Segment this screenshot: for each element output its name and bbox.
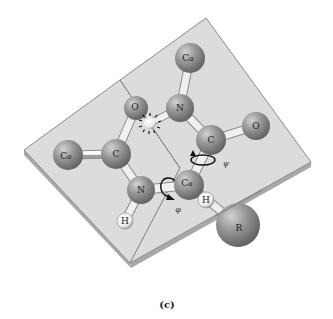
atom-calpha-left: Cα (53, 140, 83, 170)
atom-nitrogen-top: N (166, 94, 194, 122)
svg-text:O: O (131, 102, 138, 112)
svg-text:O: O (252, 121, 259, 131)
svg-text:Cα: Cα (181, 178, 193, 188)
svg-text:H: H (202, 195, 210, 205)
atom-calpha-top: Cα (175, 43, 205, 73)
svg-text:H: H (121, 216, 129, 226)
atom-r-group: R (216, 203, 260, 247)
figure-caption: (c) (159, 299, 175, 310)
atom-carbon-right: C (196, 125, 226, 155)
svg-text:Cα: Cα (60, 151, 72, 161)
atom-hydrogen-n: H (117, 213, 133, 229)
svg-text:N: N (176, 103, 184, 113)
atom-oxygen-right: O (242, 112, 270, 140)
svg-text:Cα: Cα (182, 53, 194, 63)
peptide-plane-diagram: Cα C O N Cα (0, 0, 333, 319)
hydrogen-clash (144, 117, 156, 129)
psi-label: ψ (223, 159, 230, 168)
phi-label: φ (175, 205, 181, 214)
svg-text:R: R (236, 223, 243, 233)
svg-text:C: C (208, 135, 215, 145)
atom-hydrogen-calpha: H (198, 192, 214, 208)
atom-nitrogen-bottom: N (127, 176, 155, 204)
svg-text:N: N (137, 185, 145, 195)
atom-carbon-left: C (101, 139, 131, 169)
svg-text:C: C (113, 149, 120, 159)
